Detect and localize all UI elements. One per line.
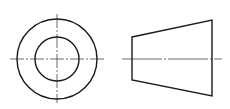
end-view: [10, 14, 104, 103]
frustum-outline: [132, 20, 212, 96]
technical-drawing: [0, 0, 230, 109]
side-view: [122, 20, 222, 96]
